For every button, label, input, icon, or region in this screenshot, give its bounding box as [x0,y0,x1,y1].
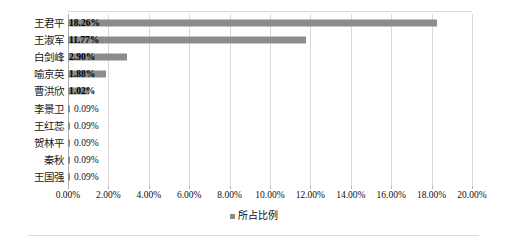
bar-value-label: 0.09% [74,120,99,131]
bar-value-label: 0.09% [74,137,99,148]
x-axis-tick-label: 2.00% [96,189,121,201]
bar [68,122,70,129]
legend-square-marker-icon [230,214,235,219]
y-axis-category-label: 王君平 [0,17,64,29]
bar-row: 1.02% [68,83,472,100]
bar-chart: 王君平王淑军白剑峰喻京英曹洪欣李景卫王红蕊贺林平秦秋王国强 18.26%11.7… [0,0,507,248]
y-axis-category-label: 秦秋 [0,154,64,166]
bar-value-label: 11.77% [69,34,99,45]
legend-label: 所占比例 [238,210,278,222]
y-axis-category-label: 贺林平 [0,137,64,149]
y-axis-category-label: 白剑峰 [0,51,64,63]
bar [68,139,70,146]
y-axis-category-labels: 王君平王淑军白剑峰喻京英曹洪欣李景卫王红蕊贺林平秦秋王国强 [0,14,64,186]
bar [68,157,70,164]
bar-value-label: 1.02% [69,86,95,97]
bar [68,174,70,181]
gridline [472,14,473,186]
bar [68,36,306,43]
x-axis-tick-label: 10.00% [255,189,284,201]
bar-rows: 18.26%11.77%2.90%1.88%1.02%0.09%0.09%0.0… [68,14,472,186]
x-axis-tick-label: 20.00% [457,189,486,201]
bar [68,19,437,26]
y-axis-category-label: 曹洪欣 [0,85,64,97]
bar-row: 0.09% [68,117,472,134]
bar-row: 0.09% [68,152,472,169]
x-axis-tick-label: 12.00% [296,189,325,201]
y-axis-category-label: 王淑军 [0,34,64,46]
x-axis-tick-label: 4.00% [137,189,162,201]
y-axis-category-label: 王国强 [0,171,64,183]
chart-legend: 所占比例 [0,210,507,222]
bar-value-label: 0.09% [74,155,99,166]
x-axis-tick-label: 6.00% [177,189,202,201]
x-axis: 0.00%2.00%4.00%6.00%8.00%10.00%12.00%14.… [68,186,472,202]
bar-row: 2.90% [68,48,472,65]
bar-value-label: 0.09% [74,172,99,183]
bar-value-label: 1.88% [69,69,95,80]
bar-value-label: 0.09% [74,103,99,114]
x-axis-tick-label: 18.00% [417,189,446,201]
bar-row: 1.88% [68,66,472,83]
y-axis-category-label: 喻京英 [0,68,64,80]
bar-row: 0.09% [68,169,472,186]
bar-value-label: 18.26% [69,17,100,28]
bar-value-label: 2.90% [69,51,95,62]
x-axis-tick-label: 0.00% [56,189,81,201]
x-axis-tick-label: 14.00% [336,189,365,201]
x-axis-tick-label: 16.00% [377,189,406,201]
chart-top-border [68,11,472,12]
bar-row: 0.09% [68,134,472,151]
x-axis-tick-label: 8.00% [217,189,242,201]
plot-area: 18.26%11.77%2.90%1.88%1.02%0.09%0.09%0.0… [68,14,472,186]
bottom-divider [28,235,479,236]
bar-row: 11.77% [68,31,472,48]
y-axis-category-label: 王红蕊 [0,120,64,132]
y-axis-category-label: 李景卫 [0,103,64,115]
bar-row: 0.09% [68,100,472,117]
bar-row: 18.26% [68,14,472,31]
bar [68,105,70,112]
